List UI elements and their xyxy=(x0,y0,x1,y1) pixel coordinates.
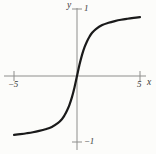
x-axis-tick-label-neg5: −5 xyxy=(8,80,18,89)
coordinate-graph-figure: −5 5 1 −1 x y xyxy=(0,0,156,154)
y-axis-name-label: y xyxy=(67,1,71,11)
y-axis-tick-label-neg1: −1 xyxy=(84,137,94,146)
graph-canvas xyxy=(0,0,156,154)
y-axis-tick-label-pos1: 1 xyxy=(84,4,88,13)
x-axis-name-label: x xyxy=(147,78,151,88)
x-axis-tick-label-pos5: 5 xyxy=(137,80,141,89)
